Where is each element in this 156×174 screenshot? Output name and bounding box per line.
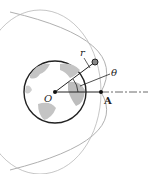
satellite (92, 59, 98, 65)
orbit-diagram: O r θ A (0, 0, 156, 174)
angle-label: θ (111, 67, 117, 78)
point-a-label: A (103, 95, 112, 106)
radius-leader-line (84, 58, 90, 68)
radius-label: r (80, 47, 86, 58)
point-a (99, 90, 103, 94)
origin-label: O (44, 93, 52, 104)
origin-point (53, 90, 57, 94)
